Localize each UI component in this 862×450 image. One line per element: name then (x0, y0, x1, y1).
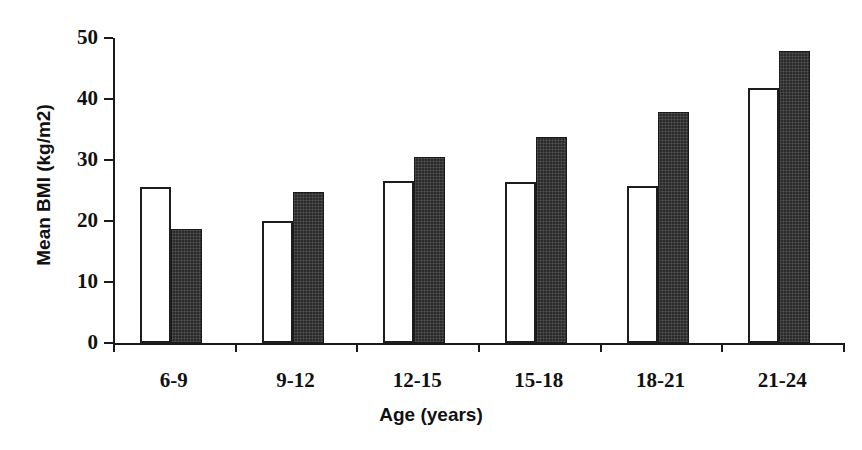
y-tick: 40 (104, 98, 113, 100)
y-tick-label: 20 (77, 208, 98, 233)
bar-filled (414, 157, 445, 343)
bar-filled (293, 192, 324, 343)
bar-open (140, 187, 171, 343)
y-tick-label: 50 (77, 25, 98, 50)
bar-chart-figure: Mean BMI (kg/m2) 01020304050 6-99-1212-1… (0, 0, 862, 450)
x-tick (721, 343, 723, 352)
category-label: 9-12 (276, 368, 315, 393)
bar-open (748, 88, 779, 343)
y-tick-label: 30 (77, 147, 98, 172)
x-tick (478, 343, 480, 352)
bar-filled (171, 229, 202, 343)
x-tick (843, 343, 845, 352)
category-label: 21-24 (758, 368, 807, 393)
y-tick-label: 0 (88, 330, 99, 355)
bar-open (262, 221, 293, 343)
y-axis-title: Mean BMI (kg/m2) (33, 55, 55, 315)
category-label: 6-9 (160, 368, 188, 393)
y-tick: 10 (104, 281, 113, 283)
plot-area: 01020304050 6-99-1212-1515-1818-2121-24 (113, 38, 843, 344)
x-tick (113, 343, 115, 352)
bar-open (627, 186, 658, 343)
bar-filled (536, 137, 567, 343)
x-axis-title: Age (years) (0, 404, 862, 426)
bar-filled (779, 51, 810, 343)
y-tick: 0 (104, 342, 113, 344)
category-label: 15-18 (514, 368, 563, 393)
bar-open (383, 181, 414, 343)
category-label: 18-21 (636, 368, 685, 393)
category-label: 12-15 (393, 368, 442, 393)
x-tick (235, 343, 237, 352)
y-tick: 20 (104, 220, 113, 222)
y-tick-label: 40 (77, 86, 98, 111)
bar-filled (658, 112, 689, 343)
bar-open (505, 182, 536, 343)
y-tick: 50 (104, 37, 113, 39)
y-tick-label: 10 (77, 269, 98, 294)
y-tick: 30 (104, 159, 113, 161)
x-tick (356, 343, 358, 352)
x-tick (600, 343, 602, 352)
y-axis-line (113, 38, 115, 345)
